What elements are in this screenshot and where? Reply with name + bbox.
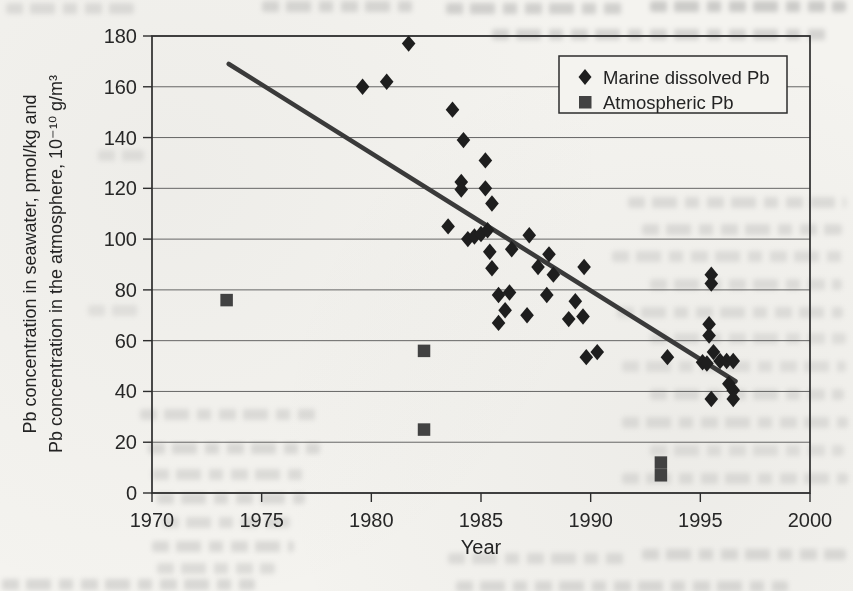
y-tick-label: 140 xyxy=(104,127,137,149)
marine-point xyxy=(479,180,493,196)
y-tick-label: 20 xyxy=(115,431,137,453)
marine-point xyxy=(540,287,554,303)
y-tick-label: 60 xyxy=(115,330,137,352)
x-tick-label: 1990 xyxy=(568,509,613,531)
marine-point xyxy=(492,287,506,303)
marine-point xyxy=(522,227,536,243)
y-tick-label: 100 xyxy=(104,228,137,250)
y-tick-label: 160 xyxy=(104,76,137,98)
marine-point xyxy=(485,260,499,276)
atmospheric-point xyxy=(655,456,668,469)
y-tick-label: 80 xyxy=(115,279,137,301)
marine-point xyxy=(562,311,576,327)
marine-point xyxy=(479,152,493,168)
x-tick-label: 1970 xyxy=(130,509,175,531)
marine-point xyxy=(441,218,455,234)
marine-point xyxy=(503,284,517,300)
y-tick-label: 0 xyxy=(126,482,137,504)
marine-point xyxy=(569,293,583,309)
pb-concentration-chart: 0204060801001201401601801970197519801985… xyxy=(0,0,853,591)
x-tick-label: 1985 xyxy=(459,509,504,531)
y-axis-title-line1: Pb concentration in seawater, pmol/kg an… xyxy=(20,94,40,433)
legend: Marine dissolved Pb Atmospheric Pb xyxy=(559,56,787,113)
marine-point xyxy=(520,307,534,323)
atmospheric-pb-points xyxy=(220,294,667,482)
marine-point xyxy=(380,74,394,90)
marine-point xyxy=(356,79,370,95)
marine-point xyxy=(577,259,591,275)
marine-point xyxy=(705,391,719,407)
atmospheric-point xyxy=(418,345,431,358)
legend-label-marine: Marine dissolved Pb xyxy=(603,67,770,88)
marine-point xyxy=(402,35,416,51)
x-tick-label: 1995 xyxy=(678,509,723,531)
marine-point xyxy=(498,302,512,318)
y-tick-label: 180 xyxy=(104,25,137,47)
square-icon xyxy=(579,96,592,109)
marine-point xyxy=(492,315,506,331)
y-tick-label: 120 xyxy=(104,177,137,199)
marine-point xyxy=(576,308,590,324)
atmospheric-point xyxy=(418,423,431,436)
x-axis-title: Year xyxy=(461,536,502,558)
y-tick-label: 40 xyxy=(115,380,137,402)
scanned-book-page: 0204060801001201401601801970197519801985… xyxy=(0,0,853,591)
atmospheric-point xyxy=(220,294,233,307)
marine-point xyxy=(661,349,675,365)
x-tick-label: 1980 xyxy=(349,509,394,531)
marine-point xyxy=(726,391,740,407)
legend-label-atmospheric: Atmospheric Pb xyxy=(603,92,734,113)
x-tick-label: 2000 xyxy=(788,509,833,531)
atmospheric-point xyxy=(655,469,668,482)
marine-point xyxy=(702,327,716,343)
y-axis-title-line2: Pb concentration in the atmosphere, 10⁻¹… xyxy=(46,75,66,453)
marine-point xyxy=(446,101,460,117)
marine-point xyxy=(705,275,719,291)
marine-point xyxy=(483,244,497,260)
marine-point xyxy=(457,132,471,148)
x-tick-label: 1975 xyxy=(239,509,284,531)
marine-point xyxy=(485,195,499,211)
